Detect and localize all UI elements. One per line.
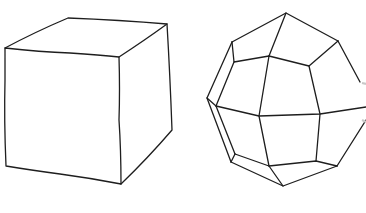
figure-canvas (0, 0, 366, 213)
sketch-drawing (0, 0, 366, 213)
cube-shape (5, 18, 172, 184)
polyhedron-shape (207, 13, 366, 186)
